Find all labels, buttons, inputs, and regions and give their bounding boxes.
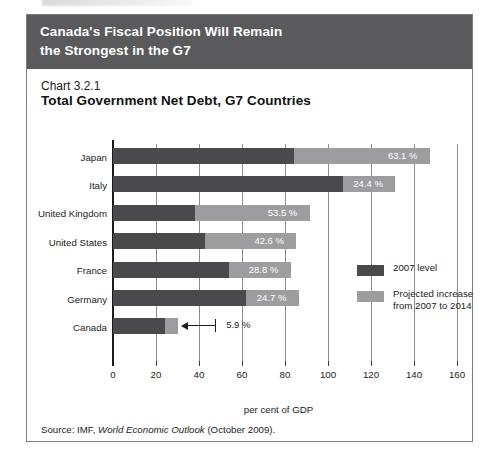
x-axis-tick: [199, 361, 200, 366]
x-axis-tick-label: 0: [98, 369, 128, 380]
arrow-line: [187, 325, 215, 326]
x-axis-tick-label: 160: [442, 369, 472, 380]
x-axis-tick-label: 60: [227, 369, 257, 380]
y-axis-category-label: Japan: [19, 152, 107, 163]
source-note: Source: IMF, World Economic Outlook (Oct…: [41, 424, 275, 435]
bar-value-label: 24.4 %: [353, 178, 383, 189]
y-axis-category-label: United States: [19, 237, 107, 248]
table-row: 24.7 %: [113, 290, 299, 306]
gridline: [457, 144, 458, 365]
x-axis-tick-label: 40: [184, 369, 214, 380]
bar-segment-2007-level: [113, 290, 246, 306]
bar-value-label: 53.5 %: [268, 207, 298, 218]
bar-segment-2007-level: [113, 233, 205, 249]
bar-segment-projected-increase: [165, 318, 178, 334]
table-row: 53.5 %: [113, 205, 310, 221]
bar-value-label: 63.1 %: [388, 150, 418, 161]
x-axis-tick: [328, 361, 329, 366]
legend-label-line-2: from 2007 to 2014: [393, 300, 472, 311]
source-suffix: (October 2009).: [207, 424, 275, 435]
table-row: 63.1 %: [113, 148, 430, 164]
x-axis-tick-label: 80: [270, 369, 300, 380]
x-axis-tick: [457, 361, 458, 366]
legend-label-projected-increase: Projected increasefrom 2007 to 2014: [393, 288, 473, 311]
gridline: [414, 144, 415, 365]
bar-segment-2007-level: [113, 205, 195, 221]
x-axis-tick: [285, 361, 286, 366]
scan-smudge: [42, 0, 192, 6]
x-axis-title-text: per cent of GDP: [244, 404, 313, 415]
bar-value-label: 24.7 %: [257, 292, 287, 303]
bar-chart: 020406080100120140160Japan63.1 %Italy24.…: [27, 15, 474, 443]
y-axis-category-label: Canada: [19, 322, 107, 333]
y-axis-category-label: France: [19, 265, 107, 276]
x-axis-tick-label: 140: [399, 369, 429, 380]
source-prefix: Source: IMF,: [41, 424, 95, 435]
x-axis-tick-label: 20: [141, 369, 171, 380]
x-axis-tick-label: 120: [356, 369, 386, 380]
table-row: 42.6 %: [113, 233, 296, 249]
bar-segment-2007-level: [113, 148, 294, 164]
table-row: 24.4 %: [113, 176, 395, 192]
bar-value-label: 42.6 %: [254, 235, 284, 246]
bar-segment-2007-level: [113, 318, 165, 334]
x-axis-tick: [414, 361, 415, 366]
x-axis-tick: [371, 361, 372, 366]
x-axis-tick: [156, 361, 157, 366]
source-publication: World Economic Outlook: [98, 424, 205, 435]
legend-label-2007-level: 2007 level: [393, 262, 437, 274]
x-axis-title: per cent of GDP: [27, 404, 474, 415]
y-axis-category-label: Germany: [19, 294, 107, 305]
legend-label-line-1: Projected increase: [393, 288, 473, 299]
dark-swatch-icon: [357, 265, 384, 276]
chart-panel: Canada's Fiscal Position Will Remain the…: [26, 14, 473, 442]
bar-segment-2007-level: [113, 176, 343, 192]
x-axis-tick: [242, 361, 243, 366]
bar-segment-2007-level: [113, 262, 229, 278]
bar-value-label: 28.8 %: [249, 264, 279, 275]
canada-value-label: 5.9 %: [226, 319, 250, 330]
table-row: [113, 318, 178, 334]
arrow-stem: [215, 319, 216, 332]
page-edge-artifact: [0, 0, 500, 12]
table-row: 28.8 %: [113, 262, 291, 278]
light-swatch-icon: [357, 291, 384, 302]
y-axis-category-label: United Kingdom: [19, 208, 107, 219]
x-axis-tick-label: 100: [313, 369, 343, 380]
y-axis-category-label: Italy: [19, 180, 107, 191]
